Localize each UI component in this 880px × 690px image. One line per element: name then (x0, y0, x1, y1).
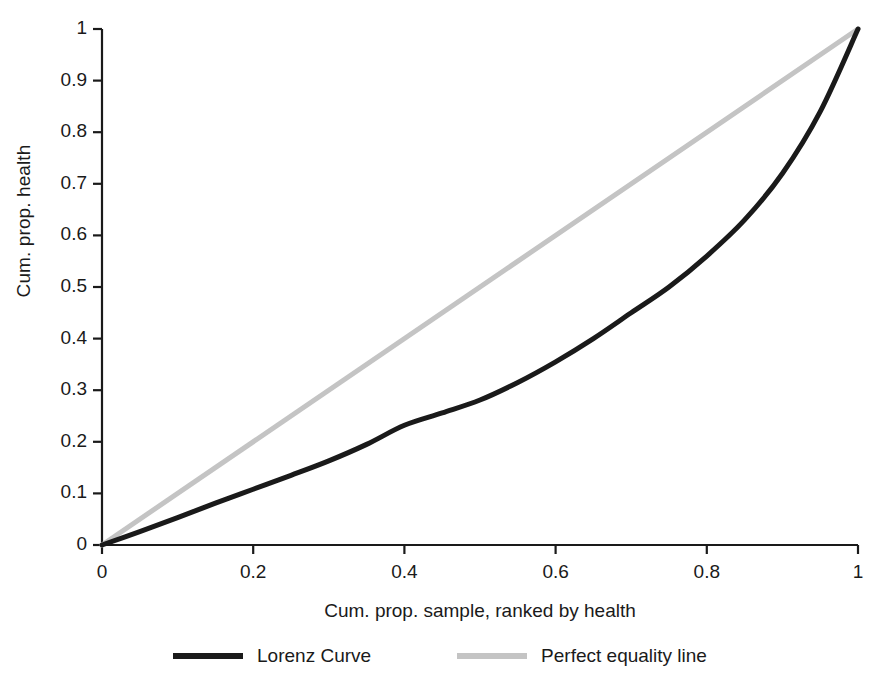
lorenz-curve-chart: Cum. prop. health Cum. prop. sample, ran… (0, 0, 880, 690)
y-axis-tick-label: 0 (29, 533, 87, 555)
x-axis-tick-label: 0 (72, 561, 132, 583)
x-axis-tick-label: 0.8 (677, 561, 737, 583)
y-axis-label: Cum. prop. health (13, 111, 35, 331)
legend-item-perfect-equality-line: Perfect equality line (457, 645, 707, 667)
series-line-perfect-equality-line (102, 29, 858, 545)
legend-label-perfect-equality-line: Perfect equality line (541, 645, 707, 667)
y-axis-tick-label: 0.8 (29, 120, 87, 142)
x-axis-label: Cum. prop. sample, ranked by health (102, 600, 858, 622)
x-axis-tick-label: 1 (828, 561, 880, 583)
y-axis-tick-label: 0.5 (29, 275, 87, 297)
y-axis-ticks (93, 29, 102, 545)
plot-canvas (0, 0, 880, 690)
y-axis-tick-label: 0.4 (29, 327, 87, 349)
y-axis-tick-label: 1 (29, 17, 87, 39)
y-axis-tick-label: 0.6 (29, 223, 87, 245)
legend-label-lorenz-curve: Lorenz Curve (257, 645, 371, 667)
x-axis-ticks (102, 545, 858, 554)
x-axis-tick-label: 0.6 (526, 561, 586, 583)
x-axis-tick-label: 0.4 (374, 561, 434, 583)
y-axis-tick-label: 0.1 (29, 481, 87, 503)
y-axis-tick-label: 0.7 (29, 172, 87, 194)
data-series (102, 29, 858, 545)
y-axis-tick-label: 0.9 (29, 69, 87, 91)
x-axis-tick-label: 0.2 (223, 561, 283, 583)
chart-legend: Lorenz Curve Perfect equality line (0, 645, 880, 667)
legend-swatch-perfect-equality-line (457, 653, 527, 659)
legend-item-lorenz-curve: Lorenz Curve (173, 645, 371, 667)
y-axis-tick-label: 0.2 (29, 430, 87, 452)
y-axis-tick-label: 0.3 (29, 378, 87, 400)
legend-swatch-lorenz-curve (173, 653, 243, 659)
